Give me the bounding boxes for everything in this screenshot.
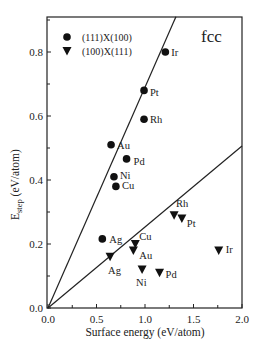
y-axis: 0.00.20.40.60.8 <box>29 20 51 314</box>
point-label: Ni <box>120 170 131 181</box>
y-tick-label: 0.4 <box>29 174 43 186</box>
y-tick-label: 0.6 <box>29 110 43 122</box>
point-label: Ir <box>226 244 233 255</box>
data-points: IrPtRhAuPdNiCuAgRhPtIrCuAuAgNiPd <box>99 47 234 288</box>
triangle-down-marker <box>138 266 147 275</box>
point-label: Ag <box>108 265 122 276</box>
point-label: Ag <box>109 234 123 245</box>
legend-label: (100)X(111) <box>82 46 132 58</box>
x-axis: 0.00.51.01.52.0 <box>41 304 249 325</box>
legend-triangle-icon <box>63 47 72 56</box>
circle-marker <box>107 141 115 149</box>
point-label: Ni <box>136 277 147 288</box>
legend-circle-icon <box>63 33 71 41</box>
y-tick-label: 0.2 <box>29 238 43 250</box>
x-tick-label: 0.0 <box>41 313 55 325</box>
y-tick-label: 0.8 <box>29 46 43 58</box>
circle-marker <box>112 183 120 191</box>
legend: (111)X(100)(100)X(111) <box>63 32 132 58</box>
point-label: Rh <box>176 198 189 209</box>
circle-marker <box>162 48 170 56</box>
circle-marker <box>99 235 107 243</box>
fcc-annotation: fcc <box>201 27 222 46</box>
point-label: Cu <box>139 231 152 242</box>
point-label: Au <box>139 250 153 261</box>
point-label: Pd <box>134 156 146 167</box>
point-label: Pt <box>150 87 159 98</box>
x-tick-label: 0.5 <box>90 313 104 325</box>
fit-lines <box>48 17 242 308</box>
x-axis-label: Surface energy (eV/atom) <box>85 326 204 339</box>
y-axis-label: Estep (eV/atom) <box>9 149 24 220</box>
triangle-down-marker <box>129 246 138 255</box>
point-label: Pd <box>166 269 178 280</box>
circle-marker <box>140 87 148 95</box>
legend-label: (111)X(100) <box>82 32 132 44</box>
x-tick-label: 1.0 <box>138 313 152 325</box>
triangle-down-marker <box>170 211 179 220</box>
triangle-down-marker <box>155 269 164 278</box>
chart: 0.00.51.01.52.0 0.00.20.40.60.8 IrPtRhAu… <box>0 0 260 358</box>
x-tick-label: 1.5 <box>187 313 201 325</box>
x-tick-label: 2.0 <box>235 313 249 325</box>
circle-marker <box>123 155 131 163</box>
circle-marker <box>110 173 118 181</box>
triangle-down-marker <box>214 246 223 255</box>
triangle-down-marker <box>106 253 115 261</box>
point-label: Au <box>117 140 131 151</box>
point-label: Pt <box>187 218 196 229</box>
point-label: Cu <box>122 180 135 191</box>
y-tick-label: 0.0 <box>29 302 43 314</box>
triangle-down-marker <box>177 214 186 223</box>
point-label: Rh <box>150 114 163 125</box>
point-label: Ir <box>171 47 178 58</box>
circle-marker <box>140 115 148 123</box>
